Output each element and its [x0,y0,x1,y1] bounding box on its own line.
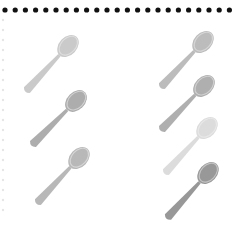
faint-border-dot [2,139,4,141]
faint-border-dot [2,99,4,101]
faint-border-dot [2,49,4,51]
border-dot [74,7,79,12]
spoon-icon [25,86,91,152]
border-dot [43,7,48,12]
border-dot [104,7,109,12]
border-dot [135,7,140,12]
border-dot [206,7,211,12]
border-dot [217,7,222,12]
faint-border-dot [2,169,4,171]
faint-border-dot [2,59,4,61]
faint-border-dot [2,39,4,41]
border-dot [186,7,191,12]
right-spoon-group [154,27,223,225]
faint-border-dot [2,119,4,121]
border-dot [13,7,18,12]
faint-left-border [2,19,4,211]
spoon-handle [163,179,202,221]
faint-border-dot [2,179,4,181]
faint-border-dot [2,209,4,211]
border-dot [84,7,89,12]
border-dot [33,7,38,12]
border-dot [145,7,150,12]
faint-border-dot [2,199,4,201]
faint-border-dot [2,129,4,131]
spoon-handle [161,134,201,176]
faint-border-dot [2,189,4,191]
faint-border-dot [2,79,4,81]
faint-border-dot [2,149,4,151]
border-dot [196,7,201,12]
border-dot [176,7,181,12]
faint-border-dot [2,19,4,21]
spoon-handle [33,164,73,206]
faint-border-dot [2,159,4,161]
spoon-icon [19,31,83,98]
border-dot [53,7,58,12]
border-dot [94,7,99,12]
border-dot [166,7,171,12]
spoon-counting-worksheet [0,0,236,231]
spoon-handle [157,92,198,134]
spoon-handle [157,48,197,90]
border-dot [115,7,120,12]
faint-border-dot [2,69,4,71]
faint-border-dot [2,89,4,91]
spoon-handle [22,52,62,94]
border-dot [227,7,232,12]
faint-border-dot [2,109,4,111]
faint-border-dot [2,29,4,31]
border-dot [64,7,69,12]
spoon-icon [30,143,94,210]
dotted-border [2,7,232,12]
left-spoon-group [19,31,94,210]
border-dot [23,7,28,12]
border-dot [125,7,130,12]
spoon-handle [28,107,70,149]
border-dot [2,7,7,12]
border-dot [155,7,160,12]
